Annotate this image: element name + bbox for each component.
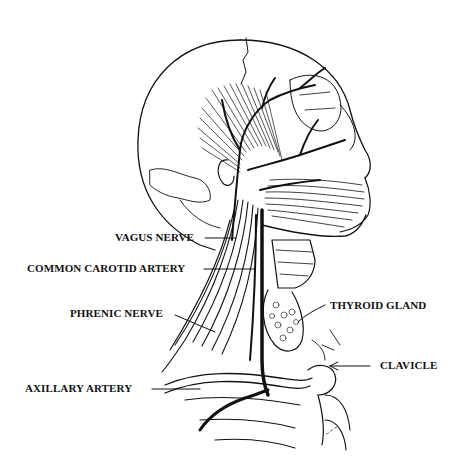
head-neck-illustration <box>0 0 463 473</box>
common-carotid-artery-line <box>262 210 268 395</box>
label-vagus-nerve: VAGUS NERVE <box>115 231 194 243</box>
ear <box>218 160 234 186</box>
label-axillary-artery: AXILLARY ARTERY <box>25 382 132 394</box>
anatomy-diagram: VAGUS NERVE COMMON CAROTID ARTERY PHRENI… <box>0 0 463 473</box>
label-common-carotid-artery: COMMON CAROTID ARTERY <box>27 262 185 274</box>
leader-phrenic <box>175 315 215 332</box>
thyroid-gland-shape <box>263 290 303 351</box>
label-phrenic-nerve: PHRENIC NERVE <box>70 307 163 319</box>
clavicle-bone <box>165 374 312 385</box>
axillary-artery-line <box>200 390 268 430</box>
skull-outline <box>138 40 240 250</box>
label-clavicle: CLAVICLE <box>380 359 437 371</box>
label-thyroid-gland: THYROID GLAND <box>330 299 426 311</box>
